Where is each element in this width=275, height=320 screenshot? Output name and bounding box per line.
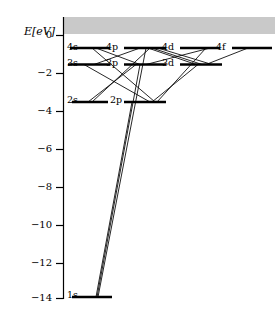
- level-label-4d: 4d: [162, 42, 174, 52]
- level-label-3p: 3p: [106, 58, 118, 68]
- level-bars-group: [68, 48, 272, 297]
- transition-4f-3d: [206, 48, 248, 65]
- level-label-4p: 4p: [106, 42, 118, 52]
- y-tick-label-minus10: −10: [6, 219, 52, 230]
- level-label-2p: 2p: [110, 95, 122, 105]
- y-tick-label-minus14: −14: [6, 292, 52, 303]
- level-label-1s: 1s: [67, 290, 78, 300]
- y-tick-label-minus12: −12: [6, 257, 52, 268]
- y-tick-label-minus6: −6: [6, 143, 52, 154]
- transition-4p-1s: [98, 48, 146, 297]
- level-label-3s: 3s: [67, 58, 78, 68]
- level-label-2s: 2s: [67, 95, 78, 105]
- transition-lines-group: [84, 48, 248, 297]
- y-tick-label-0: 0: [6, 29, 52, 40]
- y-tick-label-minus2: −2: [6, 67, 52, 78]
- level-label-3d: 3d: [162, 58, 174, 68]
- diagram-canvas: [0, 0, 275, 320]
- level-label-4s: 4s: [67, 42, 78, 52]
- y-tick-label-minus8: −8: [6, 181, 52, 192]
- transition-3d-2p: [152, 65, 198, 103]
- transition-4s-2p: [92, 48, 155, 102]
- y-axis-ticks: [56, 36, 64, 299]
- transition-2p-1s: [96, 102, 132, 297]
- level-label-4f: 4f: [216, 42, 226, 52]
- transition-4p-3d: [152, 48, 202, 65]
- energy-level-diagram: E[eV] 0 −2 −4 −6 −8 −10 −12 −14 4s 4p 4d…: [0, 0, 275, 320]
- continuum-band: [63, 17, 275, 34]
- y-tick-label-minus4: −4: [6, 105, 52, 116]
